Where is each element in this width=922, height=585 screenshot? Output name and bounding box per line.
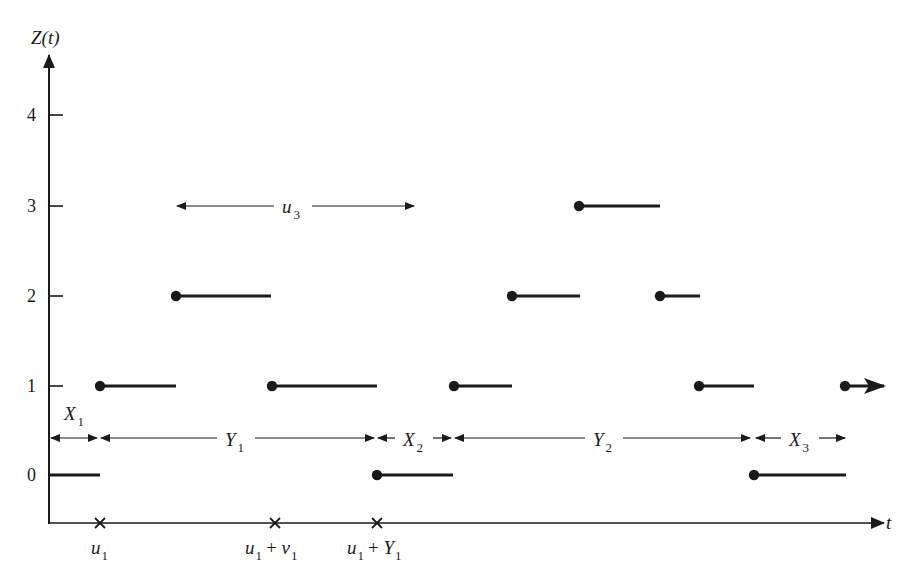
closed-point-icon <box>449 381 459 391</box>
axes <box>49 55 884 524</box>
y-tick-label: 0 <box>27 465 36 485</box>
interval-X2: X2 <box>378 429 451 455</box>
interval-label: X3 <box>788 429 809 455</box>
x-marker-u1: u1 <box>91 518 108 563</box>
interval-label: u3 <box>282 196 300 222</box>
interval-label: X2 <box>402 429 423 455</box>
closed-point-icon <box>372 470 382 480</box>
x-marker-u1_plus_v1: u1+ v1 <box>245 518 297 563</box>
closed-point-icon <box>749 470 759 480</box>
closed-point-icon <box>840 381 850 391</box>
step-segment <box>267 381 377 391</box>
closed-point-icon <box>171 291 181 301</box>
closed-point-icon <box>574 201 584 211</box>
y-tick-label: 2 <box>27 286 36 306</box>
step-segment <box>840 381 884 391</box>
step-segment <box>95 381 176 391</box>
closed-point-icon <box>95 381 105 391</box>
interval-X3: X3 <box>756 429 845 455</box>
step-segment <box>655 291 700 301</box>
step-segment <box>372 470 453 480</box>
closed-point-icon <box>694 381 704 391</box>
x-markers: u1u1+ v1u1+ Y1 <box>91 518 402 563</box>
interval-X1: X1 <box>51 403 97 438</box>
step-segment <box>171 291 271 301</box>
renewal-process-diagram: Z(t) t 01234 X1Y1X2Y2X3u3 u1u1+ v1u1+ Y1 <box>0 0 922 585</box>
step-segment <box>749 470 846 480</box>
x-marker-label: u1+ v1 <box>245 537 297 563</box>
y-ticks: 01234 <box>27 105 63 485</box>
x-marker-u1_plus_Y1: u1+ Y1 <box>347 518 402 563</box>
y-tick-label: 4 <box>27 105 36 125</box>
closed-point-icon <box>267 381 277 391</box>
closed-point-icon <box>507 291 517 301</box>
step-segment <box>449 381 512 391</box>
interval-label: Y2 <box>593 429 612 455</box>
closed-point-icon <box>655 291 665 301</box>
step-segment <box>507 291 580 301</box>
interval-label: X1 <box>63 403 84 429</box>
interval-u3: u3 <box>177 196 414 222</box>
y-tick-label: 3 <box>27 196 36 216</box>
y-tick-label: 1 <box>27 376 36 396</box>
step-segment <box>694 381 754 391</box>
x-marker-label: u1 <box>91 537 108 563</box>
step-segment <box>574 201 660 211</box>
interval-label: Y1 <box>225 429 244 455</box>
x-marker-label: u1+ Y1 <box>347 537 402 563</box>
interval-Y1: Y1 <box>101 429 374 455</box>
interval-arrows: X1Y1X2Y2X3u3 <box>51 196 845 455</box>
y-axis-label: Z(t) <box>31 27 60 49</box>
interval-Y2: Y2 <box>455 429 750 455</box>
x-axis-label: t <box>886 512 892 533</box>
